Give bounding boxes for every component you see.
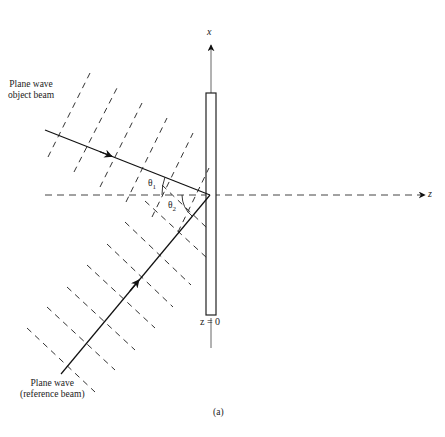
z-axis-label: z (428, 188, 432, 199)
object-beam-ray (45, 130, 210, 195)
theta2-arc (182, 195, 192, 216)
object-beam-label-line2: object beam (8, 90, 54, 101)
object-beam-wavefronts (48, 73, 209, 232)
theta1-label: θ1 (148, 178, 156, 191)
reference-beam-ray (61, 195, 210, 374)
reference-beam-label-line1: Plane wave (20, 378, 85, 389)
reference-beam-label-line2: (reference beam) (20, 389, 85, 400)
theta2-subscript: 2 (173, 205, 177, 213)
object-beam-label: Plane wave object beam (8, 79, 54, 101)
holographic-plate (206, 93, 216, 315)
x-axis-label: x (207, 26, 211, 37)
reference-beam-wavefronts (27, 185, 207, 392)
figure-caption: (a) (213, 407, 224, 418)
object-beam-label-line1: Plane wave (8, 79, 54, 90)
theta2-label: θ2 (168, 200, 176, 213)
reference-beam-label: Plane wave (reference beam) (20, 378, 85, 400)
diagram-canvas (0, 0, 445, 437)
theta1-subscript: 1 (153, 183, 157, 191)
plate-position-label: z = 0 (200, 316, 220, 327)
